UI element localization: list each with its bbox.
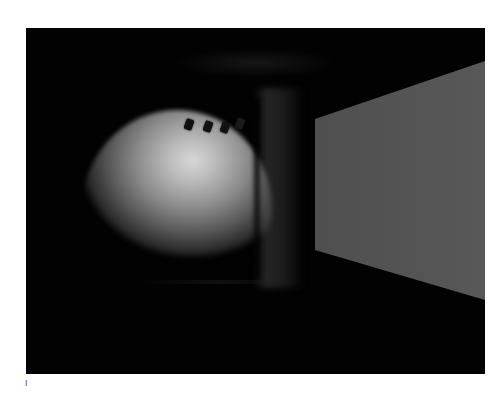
figure-label: I [25, 378, 28, 388]
render-frame [26, 28, 485, 374]
gray-wall-panel [26, 28, 485, 374]
